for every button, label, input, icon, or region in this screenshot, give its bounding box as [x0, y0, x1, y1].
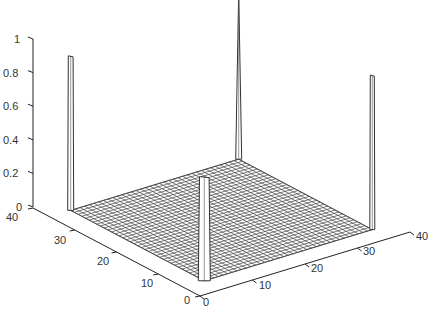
y-tick [195, 296, 200, 297]
surface-plot: 10.80.60.40.20403020100010203040 [0, 0, 438, 311]
surface-mesh [71, 159, 373, 281]
x-tick [305, 264, 309, 267]
z-tick-label: 0.4 [3, 134, 18, 146]
y-tick-label: 0 [184, 294, 190, 306]
y-tick-label: 40 [6, 211, 18, 223]
x-tick [410, 232, 414, 235]
z-tick [28, 171, 33, 173]
y-tick [28, 208, 33, 209]
x-tick-label: 20 [311, 262, 323, 274]
y-tick-label: 20 [97, 255, 109, 267]
y-tick [153, 274, 158, 275]
x-tick-label: 10 [259, 279, 271, 291]
x-tick [253, 280, 257, 283]
x-tick-label: 40 [416, 230, 428, 242]
y-tick-label: 10 [141, 277, 153, 289]
y-tick [70, 230, 75, 231]
y-tick [112, 252, 117, 253]
z-tick [28, 71, 33, 73]
z-tick [28, 205, 33, 207]
x-tick-label: 0 [203, 296, 209, 308]
z-tick [28, 138, 33, 140]
z-tick-label: 1 [14, 33, 20, 45]
x-tick-label: 30 [363, 245, 375, 257]
z-tick-label: 0.2 [3, 167, 18, 179]
z-tick [28, 37, 33, 39]
z-tick-label: 0.6 [3, 100, 18, 112]
z-tick [28, 104, 33, 106]
x-tick [358, 248, 362, 251]
z-tick-label: 0.8 [3, 67, 18, 79]
y-tick-label: 30 [54, 234, 66, 246]
